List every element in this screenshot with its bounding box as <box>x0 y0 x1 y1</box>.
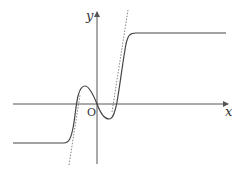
dotted-guide-right <box>112 10 128 112</box>
y-axis-label: y <box>85 8 94 23</box>
origin-label: O <box>87 106 96 119</box>
function-curve <box>13 33 226 143</box>
function-graph: y x O <box>0 0 241 173</box>
x-axis-label: x <box>225 104 233 119</box>
dotted-guide-left <box>69 95 80 165</box>
